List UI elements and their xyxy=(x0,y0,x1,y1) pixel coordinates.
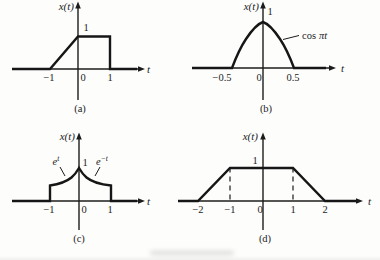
exp-right-annotation: e−t xyxy=(96,154,109,168)
x-axis-arrow-icon xyxy=(75,2,81,9)
amplitude-label-b: 1 xyxy=(267,6,272,17)
x-axis-arrow-icon xyxy=(260,2,266,9)
tick-label: −1 xyxy=(43,204,54,215)
caption-a: (a) xyxy=(74,103,86,115)
t-axis-arrow-icon xyxy=(138,66,145,71)
xlabel-d: t xyxy=(368,195,372,207)
caption-b: (b) xyxy=(260,103,273,115)
tick-label: 0 xyxy=(81,204,86,215)
caption-c: (c) xyxy=(73,233,85,245)
tick-label: 1 xyxy=(107,204,112,215)
page-edge-shadow xyxy=(0,256,380,260)
tick-label: −2 xyxy=(192,204,203,215)
panel-b: x(t) t 1 cosπt −0.5 0 0.5 (b) xyxy=(190,0,380,130)
tick-label: 2 xyxy=(322,204,327,215)
panel-c: x(t) t 1 et e−t −1 0 1 (c) xyxy=(0,130,190,260)
xlabel-b: t xyxy=(341,62,345,74)
caption-d: (d) xyxy=(259,233,272,245)
tick-label: 1 xyxy=(107,72,112,83)
x-axis-arrow-icon xyxy=(76,133,82,140)
x-axis-arrow-icon xyxy=(260,133,266,140)
xlabel-c: t xyxy=(147,195,151,207)
tick-label: −0.5 xyxy=(212,72,231,83)
ylabel-a: x(t) xyxy=(58,0,75,13)
tick-label: 0 xyxy=(80,72,85,83)
amplitude-label-c: 1 xyxy=(82,157,87,168)
tick-label: 0 xyxy=(256,72,261,83)
tick-label: −1 xyxy=(43,72,54,83)
annotation-leader-line xyxy=(283,36,299,40)
ylabel-b: x(t) xyxy=(243,0,260,13)
tick-label: 0.5 xyxy=(286,72,299,83)
amplitude-label-d: 1 xyxy=(252,155,257,166)
xlabel-a: t xyxy=(147,63,151,75)
tick-label: 0 xyxy=(257,204,262,215)
panel-a: x(t) t 1 −1 0 1 (a) xyxy=(0,0,190,130)
t-axis-arrow-icon xyxy=(329,65,336,70)
amplitude-label-a: 1 xyxy=(83,22,88,33)
annotation-leader-line xyxy=(60,167,65,176)
ylabel-c: x(t) xyxy=(59,130,76,143)
annotation-leader-line xyxy=(95,167,100,176)
tick-label: 1 xyxy=(290,204,295,215)
signal-curve-c xyxy=(12,168,137,201)
t-axis-arrow-icon xyxy=(356,198,363,203)
exp-left-annotation: et xyxy=(53,154,61,168)
signal-curve-b xyxy=(192,22,326,68)
tick-label: −1 xyxy=(224,204,235,215)
ylabel-d: x(t) xyxy=(242,130,259,143)
signal-curve-a xyxy=(12,37,137,70)
cos-annotation: cosπt xyxy=(302,30,328,41)
t-axis-arrow-icon xyxy=(138,198,145,203)
signal-curve-d xyxy=(178,168,356,201)
panel-d: x(t) t 1 −2 −1 0 1 2 (d) xyxy=(175,130,380,260)
figure-four-signal-plots: x(t) t 1 −1 0 1 (a) x(t) t 1 cosπt −0.5 … xyxy=(0,0,380,260)
